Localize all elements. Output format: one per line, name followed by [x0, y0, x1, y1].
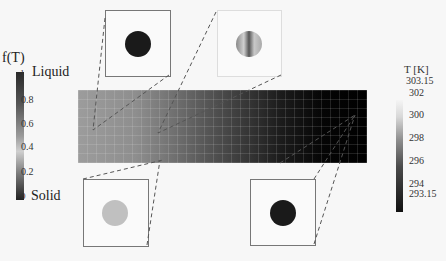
connector-lines: [0, 0, 446, 261]
